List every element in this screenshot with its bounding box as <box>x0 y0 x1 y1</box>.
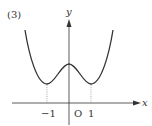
x-axis-arrow-icon <box>133 101 141 106</box>
graph: (3) y x −1 O 1 <box>0 0 152 126</box>
x-axis-label: x <box>142 97 148 108</box>
origin-label: O <box>74 108 82 119</box>
y-axis-arrow-icon <box>67 19 72 27</box>
y-axis-label: y <box>65 6 72 17</box>
tick-label-one: 1 <box>88 108 94 119</box>
problem-label: (3) <box>7 9 21 20</box>
tick-label-minus-one: −1 <box>41 108 56 119</box>
